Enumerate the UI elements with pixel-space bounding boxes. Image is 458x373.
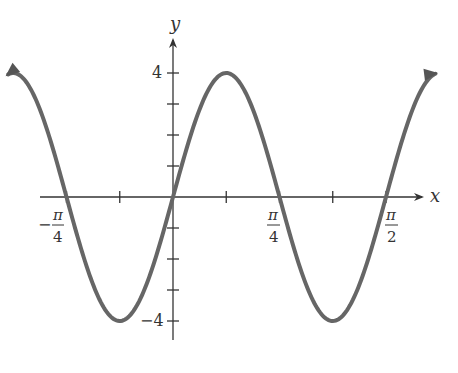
svg-text:π: π <box>385 206 397 224</box>
sine-graph: y x 4 −4 − π 4 π 4 π 2 <box>0 0 458 373</box>
svg-text:4: 4 <box>269 228 279 246</box>
svg-text:2: 2 <box>387 228 397 246</box>
x-axis-label: x <box>430 185 440 206</box>
svg-text:π: π <box>267 206 279 224</box>
y-axis-label: y <box>169 13 181 34</box>
y-tick-label-neg4: −4 <box>140 311 164 330</box>
svg-text:4: 4 <box>53 228 63 246</box>
x-tick-label-pi-over-2: π 2 <box>385 206 398 246</box>
x-tick-label-pi-over-4: π 4 <box>267 206 280 246</box>
x-tick-label-neg-pi-over-4: − π 4 <box>38 206 64 246</box>
svg-text:−: − <box>38 215 51 234</box>
svg-text:π: π <box>52 206 64 224</box>
y-tick-label-4: 4 <box>152 63 162 82</box>
